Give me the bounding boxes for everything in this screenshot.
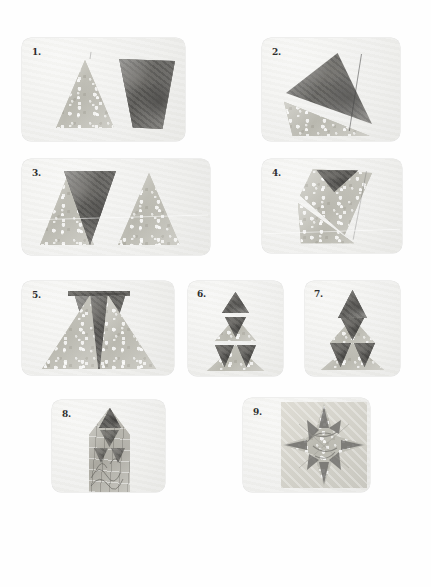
pyramid-middle-7	[330, 318, 375, 343]
step-photo-5[interactable]: 5.	[22, 281, 174, 375]
step-number-5: 5.	[32, 290, 41, 300]
step-photo-1[interactable]: 1.	[22, 38, 185, 141]
top-seam-allowance-5	[68, 291, 130, 296]
step-number-1: 1.	[32, 47, 41, 57]
step-photo-2[interactable]: 2.	[262, 38, 400, 141]
tutorial-sheet: 1. 2. 3. 4. 5.	[0, 0, 431, 587]
step-number-4: 4.	[272, 168, 281, 178]
unit-middle-6	[215, 317, 256, 341]
step-photo-3[interactable]: 3.	[22, 159, 210, 255]
unit-bottom-6	[207, 345, 264, 371]
step-photo-8[interactable]: 8.	[52, 400, 165, 492]
step-number-9: 9.	[253, 407, 262, 417]
step-number-6: 6.	[197, 289, 206, 299]
step-number-2: 2.	[272, 47, 281, 57]
pyramid-bottom-7	[321, 343, 384, 370]
star-seam-detail-9	[281, 402, 367, 488]
step-number-7: 7.	[314, 289, 323, 299]
step-photo-4[interactable]: 4.	[262, 159, 402, 253]
step-number-8: 8.	[62, 409, 71, 419]
step-photo-6[interactable]: 6.	[188, 281, 283, 376]
step-number-3: 3.	[32, 168, 41, 178]
step-photo-9[interactable]: 9.	[243, 398, 370, 492]
step-photo-7[interactable]: 7.	[305, 281, 400, 376]
block-ground-9	[281, 402, 367, 488]
